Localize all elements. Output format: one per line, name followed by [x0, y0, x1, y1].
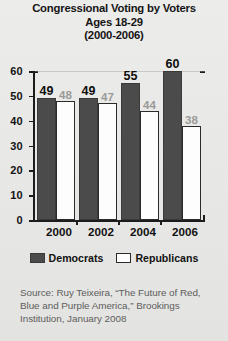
plot-area: 0 10 20 30 40 50 60 49 48 2000 49 47 200…	[33, 71, 205, 220]
bar-republicans-2000: 48	[56, 101, 75, 220]
chart-legend: Democrats Republicans	[0, 252, 228, 264]
legend-item-republicans: Republicans	[116, 252, 198, 264]
bar-value-democrats-2002: 49	[82, 84, 96, 98]
bar-value-republicans-2000: 48	[59, 89, 72, 101]
y-axis-label-40: 40	[10, 115, 22, 127]
y-axis-label-20: 20	[10, 164, 22, 176]
bar-democrats-2000: 49	[37, 98, 56, 220]
y-tick-20: 20	[29, 170, 34, 172]
y-axis-label-30: 30	[10, 140, 22, 152]
y-tick-30: 30	[29, 146, 34, 148]
y-tick-50: 50	[29, 96, 34, 98]
bar-republicans-2006: 38	[182, 126, 201, 220]
bar-democrats-2002: 49	[79, 98, 98, 220]
y-axis-label-60: 60	[10, 65, 22, 77]
legend-swatch-democrats	[30, 253, 45, 263]
x-axis-label-2000: 2000	[46, 225, 72, 238]
chart-title: Congressional Voting by Voters Ages 18-2…	[0, 2, 228, 43]
bar-value-democrats-2004: 55	[124, 69, 138, 83]
x-tick-sep-2	[118, 220, 120, 225]
bar-republicans-2004: 44	[140, 111, 159, 220]
y-tick-40: 40	[29, 121, 34, 123]
y-axis-label-0: 0	[16, 214, 22, 226]
bar-value-republicans-2002: 47	[101, 91, 114, 103]
y-tick-10: 10	[29, 195, 34, 197]
plot-bottom-right-cap	[203, 215, 205, 220]
y-axis-label-10: 10	[10, 189, 22, 201]
legend-item-democrats: Democrats	[30, 252, 104, 264]
x-axis-label-2006: 2006	[172, 225, 198, 238]
bar-republicans-2002: 47	[98, 103, 117, 220]
legend-label-democrats: Democrats	[49, 252, 104, 264]
chart-title-line-2: Ages 18-29	[0, 16, 228, 30]
x-tick-sep-1	[76, 220, 78, 225]
y-axis-label-50: 50	[10, 90, 22, 102]
source-citation: Source: Ruy Teixeira, “The Future of Red…	[20, 286, 216, 326]
chart-figure: Congressional Voting by Voters Ages 18-2…	[0, 0, 228, 341]
x-axis-label-2002: 2002	[88, 225, 114, 238]
legend-label-republicans: Republicans	[135, 252, 198, 264]
y-tick-60: 60	[29, 71, 34, 73]
bar-value-republicans-2006: 38	[185, 114, 198, 126]
bar-value-republicans-2004: 44	[143, 99, 156, 111]
x-tick-sep-3	[160, 220, 162, 225]
chart-title-line-1: Congressional Voting by Voters	[0, 2, 228, 16]
bar-value-democrats-2000: 49	[40, 84, 54, 98]
chart-title-line-3: (2000-2006)	[0, 29, 228, 43]
bar-democrats-2004: 55	[121, 83, 140, 220]
legend-swatch-republicans	[116, 253, 131, 263]
bar-democrats-2006: 60	[163, 71, 182, 220]
x-axis-label-2004: 2004	[130, 225, 156, 238]
y-tick-0: 0	[29, 220, 34, 222]
bar-value-democrats-2006: 60	[166, 57, 180, 71]
